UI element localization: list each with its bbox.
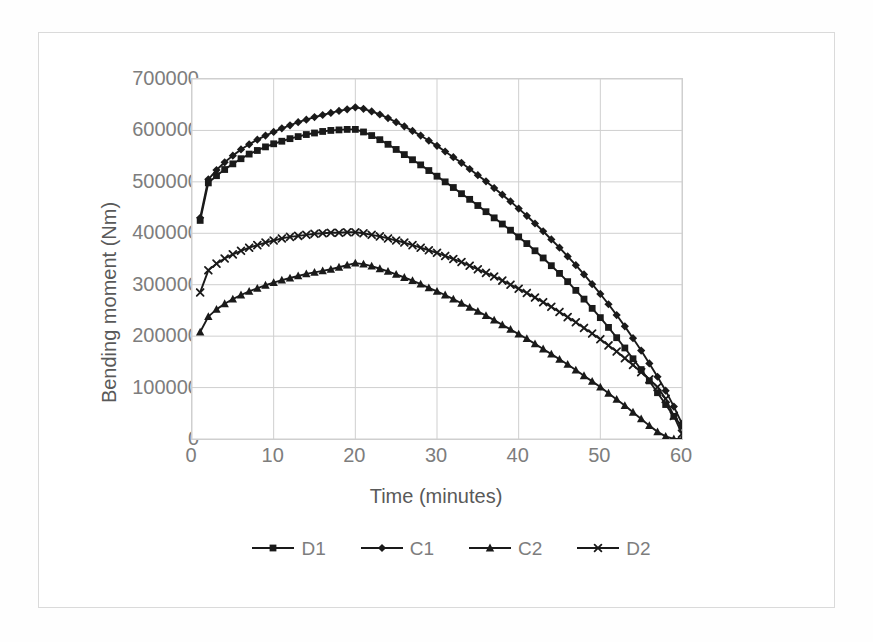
y-tick-label: 400000: [69, 222, 199, 242]
plot-svg: [192, 79, 682, 439]
plot-area: [191, 78, 683, 440]
y-tick-label: 0: [69, 428, 199, 448]
y-tick-label: 300000: [69, 274, 199, 294]
y-tick-label: 600000: [69, 119, 199, 139]
legend-label: C2: [518, 539, 542, 558]
x-tick-label: 50: [588, 445, 610, 465]
y-tick-label: 100000: [69, 377, 199, 397]
series-C2: [196, 259, 682, 439]
x-tick-label: 30: [425, 445, 447, 465]
legend-item-d2[interactable]: D2: [576, 539, 650, 558]
chart-screenshot: Bending moment (Nm) 70000060000050000040…: [0, 0, 873, 642]
series-D2: [197, 229, 682, 437]
chart-legend: D1C1C2D2: [191, 533, 711, 563]
legend-label: C1: [410, 539, 434, 558]
series-C1: [196, 103, 682, 427]
chart-frame: Bending moment (Nm) 70000060000050000040…: [38, 32, 835, 608]
x-tick-label: 60: [670, 445, 692, 465]
series-D1: [197, 126, 682, 430]
y-axis-tick-labels: 7000006000005000004000003000002000001000…: [69, 33, 199, 609]
legend-marker-triangle-icon: [468, 540, 512, 556]
y-tick-label: 700000: [69, 68, 199, 88]
legend-item-c2[interactable]: C2: [468, 539, 542, 558]
legend-item-c1[interactable]: C1: [360, 539, 434, 558]
legend-label: D2: [626, 539, 650, 558]
x-tick-label: 40: [507, 445, 529, 465]
legend-marker-square-icon: [251, 540, 295, 556]
y-tick-label: 500000: [69, 171, 199, 191]
x-tick-label: 20: [343, 445, 365, 465]
x-axis-title: Time (minutes): [191, 485, 681, 508]
legend-label: D1: [301, 539, 325, 558]
legend-marker-x-icon: [576, 540, 620, 556]
y-tick-label: 200000: [69, 325, 199, 345]
legend-item-d1[interactable]: D1: [251, 539, 325, 558]
x-tick-label: 0: [185, 445, 196, 465]
x-tick-label: 10: [262, 445, 284, 465]
legend-marker-diamond-icon: [360, 540, 404, 556]
x-axis-tick-labels: 0102030405060: [191, 445, 681, 475]
